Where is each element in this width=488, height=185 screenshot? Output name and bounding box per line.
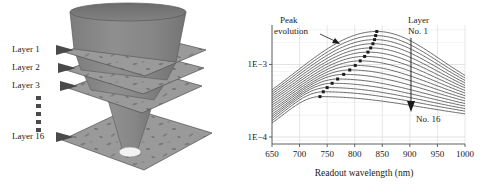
layered-medium-panel: Layer 1 Layer 2 Layer 3 Layer 16 — [0, 0, 244, 185]
x-tick-label: 950 — [431, 149, 445, 159]
layered-medium-svg: Layer 1 Layer 2 Layer 3 Layer 16 — [0, 0, 244, 185]
layer-no1-line1: Layer — [408, 15, 429, 25]
x-tick-label: 850 — [376, 149, 390, 159]
peak-evolution-line2: evolution — [274, 26, 308, 36]
y-tick-label: 1E−3 — [247, 59, 267, 69]
layer-label-2: Layer 2 — [12, 62, 40, 72]
peak-evolution-annotation: Peak evolution — [274, 15, 340, 44]
layer-no16-label: No. 16 — [416, 114, 441, 124]
x-tick-label: 700 — [293, 149, 307, 159]
x-tick-label: 900 — [403, 149, 417, 159]
layer-label-1: Layer 1 — [12, 44, 40, 54]
x-tick-label: 650 — [265, 149, 279, 159]
label-leaders — [56, 45, 78, 142]
layer-ellipsis — [36, 96, 41, 132]
plot-gridlines — [272, 25, 465, 144]
figure-container: Layer 1 Layer 2 Layer 3 Layer 16 — [0, 0, 488, 185]
x-tick-label: 750 — [320, 149, 334, 159]
x-tick-label: 800 — [348, 149, 362, 159]
peak-evolution-arrowhead — [332, 38, 340, 44]
layer-order-arrowhead — [407, 101, 415, 112]
illumination-spot — [119, 147, 141, 157]
layer-label-16: Layer 16 — [12, 131, 45, 141]
y-tick-label: 1E−4 — [247, 132, 267, 142]
plot-curves — [272, 31, 465, 122]
peak-evolution-line1: Peak — [280, 15, 298, 25]
plot-frame — [272, 25, 465, 144]
x-axis-title: Readout wavelength (nm) — [315, 168, 414, 179]
x-tick-label: 1000 — [456, 149, 475, 159]
layer-no1-line2: No. 1 — [408, 26, 428, 36]
scattering-plot-svg: 65070075080085090095010001E−41E−3 Readou… — [244, 0, 488, 185]
plot-panel: 65070075080085090095010001E−41E−3 Readou… — [244, 0, 488, 185]
layer-label-3: Layer 3 — [12, 80, 40, 90]
